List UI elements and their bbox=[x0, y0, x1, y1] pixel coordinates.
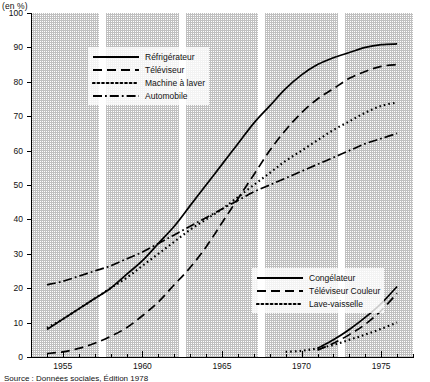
y-axis-tick-label: 60 bbox=[3, 146, 23, 156]
x-axis-tick-minor bbox=[174, 354, 175, 357]
legend-line-swatch bbox=[256, 286, 304, 296]
x-axis-tick-minor bbox=[158, 354, 159, 357]
legend-item-label: Téléviseur Couleur bbox=[309, 286, 380, 296]
legend-line-swatch bbox=[256, 273, 304, 283]
legend-primary: RéfrigérateurTéléviseurMachine à laverAu… bbox=[88, 47, 209, 105]
x-axis-tick-minor bbox=[127, 354, 128, 357]
y-axis-tick bbox=[27, 288, 32, 289]
legend-line-swatch bbox=[92, 65, 140, 75]
y-axis-tick-label: 50 bbox=[3, 180, 23, 190]
y-axis-tick bbox=[27, 254, 32, 255]
legend-secondary: CongélateurTéléviseur CouleurLave-vaisse… bbox=[252, 268, 384, 313]
legend-item-label: Automobile bbox=[145, 91, 188, 101]
series-line bbox=[47, 133, 397, 284]
legend-item-label: Machine à laver bbox=[145, 78, 205, 88]
x-axis-tick-major bbox=[381, 351, 382, 357]
legend-line-swatch bbox=[92, 52, 140, 62]
x-axis-tick-minor bbox=[238, 354, 239, 357]
y-axis-tick-label: 30 bbox=[3, 249, 23, 259]
x-axis-tick-minor bbox=[95, 354, 96, 357]
y-axis-tick bbox=[27, 47, 32, 48]
x-axis-tick-minor bbox=[286, 354, 287, 357]
y-axis-tick-label: 100 bbox=[3, 8, 23, 18]
chart-root: (en %) 0102030405060708090100 1955196019… bbox=[0, 0, 430, 382]
legend-item-label: Congélateur bbox=[309, 273, 355, 283]
y-axis-tick bbox=[27, 185, 32, 186]
y-axis-tick-label: 20 bbox=[3, 283, 23, 293]
x-axis-tick-label: 1955 bbox=[46, 361, 80, 371]
x-axis-tick-major bbox=[63, 351, 64, 357]
x-axis-tick-label: 1970 bbox=[285, 361, 319, 371]
x-axis-tick-minor bbox=[333, 354, 334, 357]
y-axis-tick bbox=[27, 151, 32, 152]
y-axis-tick-label: 70 bbox=[3, 111, 23, 121]
x-axis-tick-major bbox=[142, 351, 143, 357]
x-axis-tick-minor bbox=[190, 354, 191, 357]
y-axis-tick-label: 0 bbox=[3, 352, 23, 362]
x-axis-tick-minor bbox=[365, 354, 366, 357]
legend-item: Lave-vaisselle bbox=[256, 297, 380, 310]
legend-item: Réfrigérateur bbox=[92, 50, 205, 63]
x-axis-tick-minor bbox=[318, 354, 319, 357]
x-axis-tick-minor bbox=[79, 354, 80, 357]
series-line bbox=[286, 323, 397, 352]
legend-item: Téléviseur bbox=[92, 63, 205, 76]
x-axis-tick-label: 1965 bbox=[205, 361, 239, 371]
y-axis-tick bbox=[27, 323, 32, 324]
source-caption: Source : Données sociales, Édition 1978 bbox=[4, 374, 304, 382]
y-axis-tick-label: 80 bbox=[3, 77, 23, 87]
x-axis-tick-minor bbox=[349, 354, 350, 357]
legend-item-label: Lave-vaisselle bbox=[309, 299, 363, 309]
x-axis-tick-minor bbox=[47, 354, 48, 357]
x-axis-line bbox=[31, 357, 414, 358]
x-axis-tick-minor bbox=[111, 354, 112, 357]
x-axis-tick-major bbox=[302, 351, 303, 357]
y-axis-tick bbox=[27, 116, 32, 117]
legend-item: Congélateur bbox=[256, 271, 380, 284]
y-axis-tick-label: 90 bbox=[3, 42, 23, 52]
y-axis-tick bbox=[27, 82, 32, 83]
y-axis-tick-label: 10 bbox=[3, 318, 23, 328]
x-axis-tick-label: 1960 bbox=[125, 361, 159, 371]
legend-item-label: Réfrigérateur bbox=[145, 52, 195, 62]
legend-line-swatch bbox=[92, 78, 140, 88]
x-axis-tick-minor bbox=[413, 354, 414, 357]
legend-item: Téléviseur Couleur bbox=[256, 284, 380, 297]
legend-line-swatch bbox=[92, 91, 140, 101]
x-axis-tick-minor bbox=[254, 354, 255, 357]
x-axis-tick-minor bbox=[397, 354, 398, 357]
y-axis-tick bbox=[27, 357, 32, 358]
legend-item: Automobile bbox=[92, 89, 205, 102]
x-axis-tick-major bbox=[222, 351, 223, 357]
y-axis-tick bbox=[27, 219, 32, 220]
x-axis-tick-minor bbox=[270, 354, 271, 357]
legend-item-label: Téléviseur bbox=[145, 65, 184, 75]
x-axis-tick-minor bbox=[31, 354, 32, 357]
x-axis-tick-label: 1975 bbox=[364, 361, 398, 371]
y-axis-tick bbox=[27, 13, 32, 14]
legend-item: Machine à laver bbox=[92, 76, 205, 89]
x-axis-tick-minor bbox=[206, 354, 207, 357]
y-axis-tick-label: 40 bbox=[3, 214, 23, 224]
legend-line-swatch bbox=[256, 299, 304, 309]
